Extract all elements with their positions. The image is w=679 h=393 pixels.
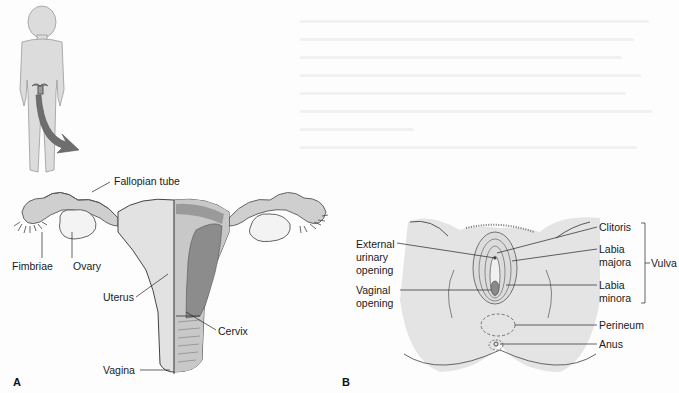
label-vulva: Vulva bbox=[651, 257, 677, 269]
label-uterus: Uterus bbox=[103, 291, 134, 303]
label-ovary: Ovary bbox=[73, 260, 101, 272]
label-labia-majora-2: majora bbox=[599, 256, 631, 268]
label-vagina: Vagina bbox=[103, 364, 135, 376]
label-labia-majora-1: Labia bbox=[599, 243, 625, 255]
label-cervix: Cervix bbox=[218, 325, 248, 337]
uterus-diagram bbox=[14, 192, 328, 374]
label-perineum: Perineum bbox=[599, 319, 644, 331]
panel-letter-a: A bbox=[13, 376, 21, 388]
label-external-urinary-opening-1: External bbox=[356, 238, 395, 250]
label-fimbriae: Fimbriae bbox=[12, 260, 53, 272]
label-external-urinary-opening-2: urinary bbox=[356, 251, 388, 263]
vulva-diagram bbox=[400, 217, 600, 372]
label-external-urinary-opening-3: opening bbox=[356, 264, 393, 276]
label-anus: Anus bbox=[599, 338, 623, 350]
anatomy-figure bbox=[0, 0, 679, 393]
label-fallopian-tube: Fallopian tube bbox=[114, 175, 180, 187]
panel-letter-b: B bbox=[342, 376, 350, 388]
label-clitoris: Clitoris bbox=[599, 221, 631, 233]
label-vaginal-opening-2: opening bbox=[356, 297, 393, 309]
label-labia-minora-1: Labia bbox=[599, 279, 625, 291]
label-labia-minora-2: minora bbox=[599, 292, 631, 304]
label-vaginal-opening-1: Vaginal bbox=[356, 284, 390, 296]
